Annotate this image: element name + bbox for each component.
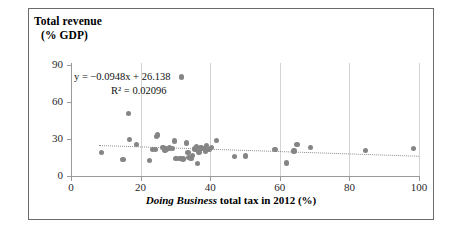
x-tick-label: 80	[332, 181, 366, 193]
figure: Total revenue (% GDP) 0306090 0204060801…	[0, 0, 462, 236]
scatter-point	[184, 140, 189, 145]
scatter-point	[209, 145, 214, 150]
x-axis-line	[71, 176, 419, 177]
y-axis-title-line2: (% GDP)	[34, 29, 102, 43]
gridline-vertical	[280, 63, 281, 176]
scatter-point	[291, 148, 296, 153]
y-tick-mark	[67, 139, 72, 140]
y-tick-label: 30	[33, 132, 63, 144]
gridline-vertical	[349, 63, 350, 176]
x-axis-title-italic: Doing Business	[146, 194, 217, 206]
scatter-point	[172, 138, 177, 143]
y-tick-mark	[67, 65, 72, 66]
scatter-point	[120, 157, 125, 162]
gridline-vertical	[210, 63, 211, 176]
x-axis-title-rest: total tax in 2012 (%)	[217, 194, 316, 206]
x-tick-label: 40	[193, 181, 227, 193]
scatter-point	[272, 147, 277, 152]
y-tick-mark	[67, 102, 72, 103]
y-tick-label: 60	[33, 95, 63, 107]
gridline-vertical	[419, 63, 420, 176]
y-axis-title-line1: Total revenue	[34, 15, 102, 27]
x-tick-label: 20	[124, 181, 158, 193]
x-axis-title: Doing Business total tax in 2012 (%)	[0, 194, 462, 206]
x-tick-label: 0	[54, 181, 88, 193]
scatter-point	[179, 74, 184, 79]
r-squared-label: R² = 0.02096	[74, 84, 171, 98]
y-axis-title: Total revenue (% GDP)	[34, 15, 102, 42]
scatter-point	[294, 142, 299, 147]
y-tick-label: 90	[33, 58, 63, 70]
regression-annotation: y = −0.0948x + 26.138 R² = 0.02096	[74, 70, 171, 98]
y-tick-label: 0	[33, 169, 63, 181]
y-axis-line	[71, 63, 72, 177]
regression-equation: y = −0.0948x + 26.138	[74, 71, 171, 82]
scatter-point	[155, 132, 160, 137]
scatter-point	[127, 137, 132, 142]
x-tick-label: 60	[263, 181, 297, 193]
scatter-point	[180, 156, 185, 161]
x-tick-label: 100	[402, 181, 436, 193]
scatter-point	[284, 160, 289, 165]
